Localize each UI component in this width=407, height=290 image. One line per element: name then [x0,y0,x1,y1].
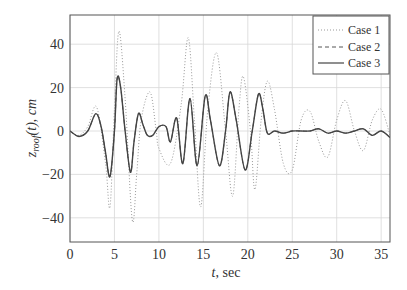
x-axis-label: t, sec [212,265,241,280]
y-tick-label: −20 [42,167,64,182]
x-axis-ticks: 05101520253035 [67,247,389,262]
y-tick-label: −40 [42,211,64,226]
legend: Case 1 Case 2 Case 3 [313,16,389,74]
y-axis-ticks: −40−2002040 [42,37,64,226]
legend-label-case3: Case 3 [348,56,380,70]
x-tick-label: 30 [330,247,344,262]
y-tick-label: 40 [50,37,64,52]
x-tick-label: 20 [241,247,255,262]
legend-label-case1: Case 1 [348,23,380,37]
x-tick-label: 10 [152,247,166,262]
legend-label-case2: Case 2 [348,40,380,54]
series-case-3 [70,76,390,177]
y-axis-label: zroof(t), cm [24,99,41,158]
x-tick-label: 5 [111,247,118,262]
y-tick-label: 20 [50,81,64,96]
x-tick-label: 15 [196,247,210,262]
line-chart: 05101520253035 −40−2002040 t, sec zroof(… [0,0,407,290]
x-tick-label: 25 [285,247,299,262]
x-tick-label: 35 [374,247,388,262]
x-tick-label: 0 [67,247,74,262]
y-tick-label: 0 [57,124,64,139]
series-case-2 [70,76,390,177]
